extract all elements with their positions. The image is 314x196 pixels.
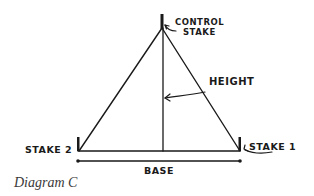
height-label: HEIGHT bbox=[209, 76, 254, 87]
base-label: BASE bbox=[144, 165, 174, 176]
right-side-line bbox=[162, 28, 240, 151]
control-stake-label-line2: STAKE bbox=[183, 27, 216, 37]
stake-1-post bbox=[239, 137, 242, 151]
stake-1-label: STAKE 1 bbox=[249, 141, 296, 152]
diagram-caption: Diagram C bbox=[14, 175, 77, 191]
left-side-line bbox=[79, 28, 162, 151]
base-dimension-dot-left bbox=[76, 159, 80, 163]
control-stake-post bbox=[161, 14, 164, 29]
stake-2-label: STAKE 2 bbox=[25, 144, 72, 155]
height-pointer-arrow bbox=[165, 92, 205, 98]
stake-2-post bbox=[77, 137, 80, 151]
triangle-staking-diagram: CONTROL STAKE HEIGHT STAKE 2 STAKE 1 BAS… bbox=[0, 0, 314, 196]
base-dimension-dot-right bbox=[238, 159, 242, 163]
control-stake-label-line1: CONTROL bbox=[175, 17, 224, 27]
